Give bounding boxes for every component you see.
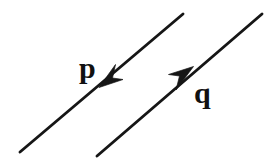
canvas-background bbox=[0, 0, 276, 164]
vector-q-label: q bbox=[194, 78, 211, 108]
vector-p-label: p bbox=[79, 53, 96, 83]
diagram-canvas bbox=[0, 0, 276, 164]
vector-diagram-figure: p q bbox=[0, 0, 276, 164]
